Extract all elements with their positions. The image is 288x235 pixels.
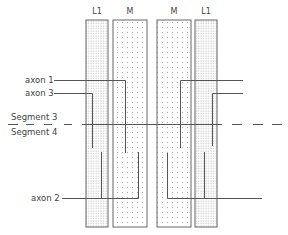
column-label-m-left: M — [113, 8, 147, 16]
column-label-m-right: M — [157, 8, 191, 16]
column-l1-left — [86, 20, 108, 227]
label-segment-3: Segment 3 — [11, 113, 57, 122]
column-label-l1-right: L1 — [195, 8, 217, 16]
label-axon-3: axon 3 — [25, 89, 54, 98]
label-axon-1: axon 1 — [25, 76, 54, 85]
label-segment-4: Segment 4 — [11, 128, 57, 137]
label-axon-2: axon 2 — [31, 194, 60, 203]
column-label-l1-left: L1 — [86, 8, 108, 16]
column-l1-right — [195, 20, 217, 227]
column-m-left — [113, 20, 147, 227]
column-m-right — [157, 20, 191, 227]
